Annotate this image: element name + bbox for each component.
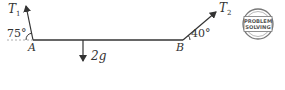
point-a-label: A [27, 41, 36, 54]
angle-a-label: 75° [7, 27, 27, 40]
angle-b-arc [188, 36, 190, 41]
weight-label: 2g [90, 49, 107, 63]
problem-solving-stamp-icon: PROBLEM SOLVING [243, 9, 273, 39]
angle-b-label: 40° [191, 27, 211, 40]
angle-a-arc [26, 33, 32, 40]
t2-label: T2 [219, 1, 231, 17]
t1-label: T1 [8, 2, 20, 18]
force-diagram: T1 75° A T2 40° B 2g PROBLEM SOLVING [0, 0, 285, 90]
point-b-label: B [175, 41, 184, 54]
stamp-line-2: SOLVING [245, 24, 270, 30]
stamp-line-1: PROBLEM [244, 18, 272, 24]
tension-t1-arrow [26, 6, 33, 40]
